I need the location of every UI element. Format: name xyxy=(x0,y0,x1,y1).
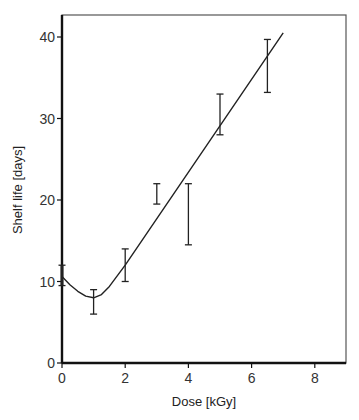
error-bar xyxy=(122,249,129,282)
fit-curve xyxy=(62,33,283,298)
x-tick-label: 8 xyxy=(311,370,319,386)
y-tick-label: 40 xyxy=(39,29,55,45)
error-bar xyxy=(264,39,271,92)
x-axis: 02468 xyxy=(58,363,319,386)
y-tick-label: 10 xyxy=(39,274,55,290)
error-bar xyxy=(185,184,192,245)
x-tick-label: 0 xyxy=(58,370,66,386)
error-bars xyxy=(59,39,271,314)
y-axis-title: Shelf life [days] xyxy=(10,146,25,234)
shelf-life-chart: 010203040 02468 Dose [kGy] Shelf life [d… xyxy=(0,0,359,420)
x-axis-title: Dose [kGy] xyxy=(172,394,236,409)
x-tick-label: 2 xyxy=(121,370,129,386)
error-bar xyxy=(90,290,97,314)
y-axis: 010203040 xyxy=(39,29,62,371)
x-tick-label: 4 xyxy=(185,370,193,386)
y-tick-label: 30 xyxy=(39,111,55,127)
plot-frame xyxy=(62,15,346,363)
error-bar xyxy=(153,184,160,204)
error-bar xyxy=(59,265,66,285)
x-tick-label: 6 xyxy=(248,370,256,386)
y-tick-label: 20 xyxy=(39,192,55,208)
y-tick-label: 0 xyxy=(47,355,55,371)
